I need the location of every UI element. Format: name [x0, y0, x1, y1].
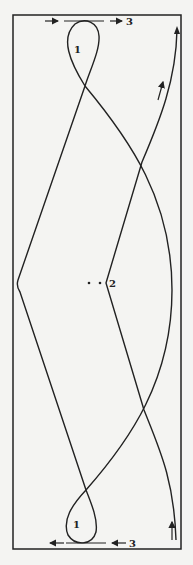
label-2: 2: [109, 278, 116, 289]
label-1-top: 1: [74, 44, 81, 55]
arrow-up-icon: [174, 26, 180, 34]
label-3-top: 3: [126, 16, 133, 27]
curve-top-loop-left-strand: [17, 21, 99, 490]
label-3-bottom: 3: [129, 538, 136, 549]
small-arrow-up-icon: [158, 82, 163, 100]
center-dot-2: [99, 282, 102, 285]
label-1-bottom: 1: [73, 519, 80, 530]
curve-center-vertex: [106, 30, 177, 540]
center-dot-1: [88, 282, 91, 285]
trajectory-diagram: 3 3 1 1 2: [0, 0, 193, 565]
curve-big-arc: [66, 86, 172, 543]
frame: [13, 15, 181, 549]
